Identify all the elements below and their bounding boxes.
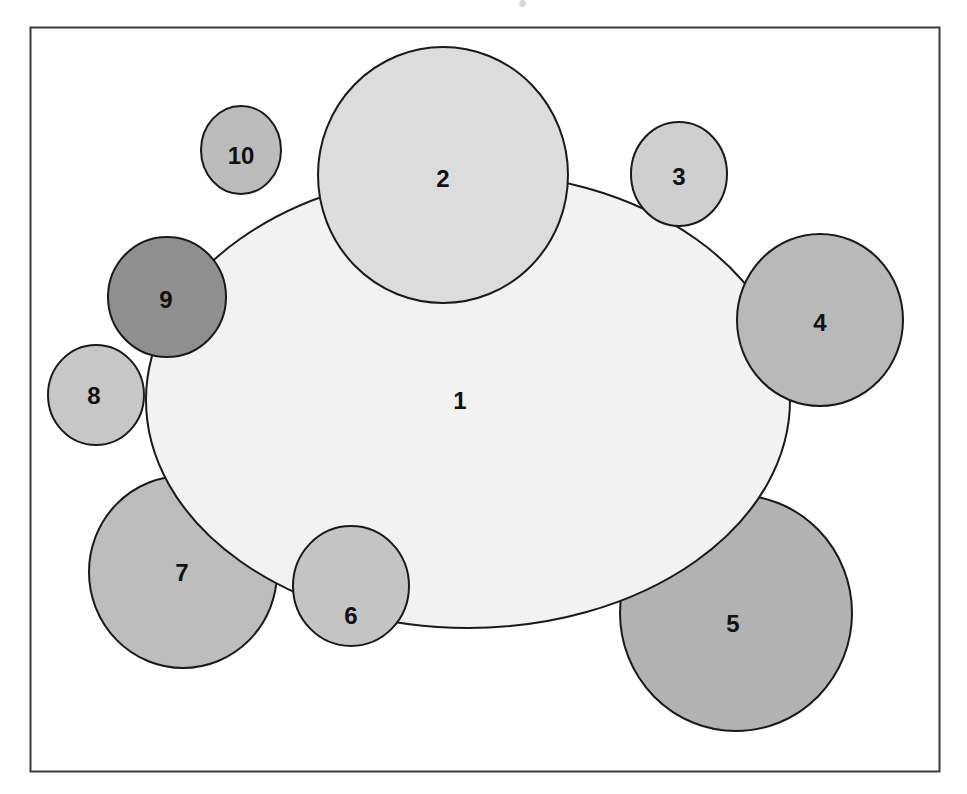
bubble-8-shape[interactable] [48, 345, 144, 445]
bubble-6-shape[interactable] [293, 526, 409, 646]
bubble-10-shape[interactable] [201, 106, 281, 194]
figure-root: 1 2 3 4 5 6 7 8 9 10 [0, 0, 967, 794]
bubble-3-shape[interactable] [631, 122, 727, 226]
bubble-2-shape[interactable] [318, 47, 568, 303]
bubble-chart: 1 2 3 4 5 6 7 8 9 10 [0, 0, 967, 794]
bubble-9-shape[interactable] [108, 237, 226, 357]
bubble-4-shape[interactable] [737, 234, 903, 406]
